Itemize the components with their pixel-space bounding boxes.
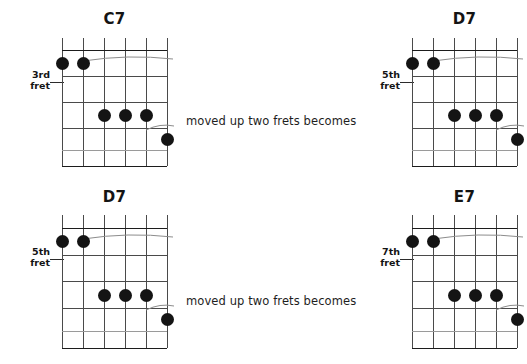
fret-line-4 <box>62 331 167 332</box>
fret-position-label: 7th fret <box>360 246 400 268</box>
fret-line-2 <box>62 281 167 282</box>
fretboard-grid <box>412 215 517 348</box>
string-line-6 <box>517 215 518 348</box>
finger-dot <box>448 289 461 302</box>
finger-dot <box>511 313 524 326</box>
fretboard-grid <box>412 38 517 166</box>
string-line-6 <box>167 38 168 166</box>
fret-line-3 <box>412 308 517 309</box>
fret-label-line1: 7th <box>360 246 400 257</box>
finger-dot <box>98 109 111 122</box>
fret-label-line1: 3rd <box>10 69 50 80</box>
barre-arc-upper <box>433 55 523 63</box>
chord-diagram-d7-bottom: D7 5th fret <box>62 190 167 350</box>
finger-dot <box>77 235 90 248</box>
fret-position-label: 3rd fret <box>10 69 50 91</box>
fret-line-5 <box>412 348 517 349</box>
fret-label-line1: 5th <box>10 246 50 257</box>
string-line-6 <box>517 38 518 166</box>
finger-dot <box>119 109 132 122</box>
chord-title: E7 <box>412 190 517 205</box>
fret-line-0 <box>62 50 167 51</box>
fret-line-4 <box>412 331 517 332</box>
finger-dot <box>77 57 90 70</box>
finger-dot <box>56 235 69 248</box>
fret-line-2 <box>62 102 167 103</box>
fret-line-0 <box>412 228 517 229</box>
fret-line-0 <box>62 228 167 229</box>
connector-text-top: moved up two frets becomes <box>186 114 356 128</box>
barre-arc-lower <box>146 303 174 311</box>
finger-dot <box>140 109 153 122</box>
finger-dot <box>427 57 440 70</box>
finger-dot <box>140 289 153 302</box>
fret-line-1 <box>412 76 517 77</box>
chord-diagram-d7-top: D7 5th fret <box>412 12 517 167</box>
barre-arc-lower <box>496 303 524 311</box>
connector-text-bottom: moved up two frets becomes <box>186 294 356 308</box>
fret-line-3 <box>62 128 167 129</box>
barre-arc-upper <box>433 233 523 241</box>
barre-arc-lower <box>146 123 174 131</box>
fret-line-2 <box>412 281 517 282</box>
fret-line-3 <box>412 128 517 129</box>
barre-arc-lower <box>496 123 524 131</box>
chord-diagram-c7: C7 3rd fret <box>62 12 167 167</box>
fret-line-4 <box>412 150 517 151</box>
fret-line-1 <box>412 255 517 256</box>
fret-label-line2: fret <box>360 257 400 268</box>
chord-chart-page: C7 3rd fret <box>0 0 527 364</box>
finger-dot <box>98 289 111 302</box>
fret-label-line2: fret <box>360 80 400 91</box>
finger-dot <box>56 57 69 70</box>
finger-dot <box>469 109 482 122</box>
fret-position-label: 5th fret <box>10 246 50 268</box>
fret-line-4 <box>62 150 167 151</box>
fret-line-3 <box>62 308 167 309</box>
chord-diagram-e7: E7 7th fret <box>412 190 517 350</box>
finger-dot <box>511 133 524 146</box>
fret-line-2 <box>412 102 517 103</box>
finger-dot <box>427 235 440 248</box>
finger-dot <box>490 289 503 302</box>
chord-title: D7 <box>62 190 167 205</box>
fret-line-0 <box>412 50 517 51</box>
fret-label-line1: 5th <box>360 69 400 80</box>
barre-arc-upper <box>83 55 173 63</box>
finger-dot <box>161 313 174 326</box>
finger-dot <box>406 57 419 70</box>
fret-position-label: 5th fret <box>360 69 400 91</box>
fret-label-line2: fret <box>10 80 50 91</box>
finger-dot <box>119 289 132 302</box>
finger-dot <box>448 109 461 122</box>
finger-dot <box>469 289 482 302</box>
fret-line-5 <box>62 348 167 349</box>
fretboard-grid <box>62 215 167 348</box>
fret-label-line2: fret <box>10 257 50 268</box>
fret-line-1 <box>62 255 167 256</box>
fret-line-5 <box>412 166 517 167</box>
string-line-6 <box>167 215 168 348</box>
finger-dot <box>490 109 503 122</box>
fret-line-1 <box>62 76 167 77</box>
fret-line-5 <box>62 166 167 167</box>
finger-dot <box>406 235 419 248</box>
barre-arc-upper <box>83 233 173 241</box>
chord-title: C7 <box>62 12 167 27</box>
chord-title: D7 <box>412 12 517 27</box>
finger-dot <box>161 133 174 146</box>
fretboard-grid <box>62 38 167 166</box>
